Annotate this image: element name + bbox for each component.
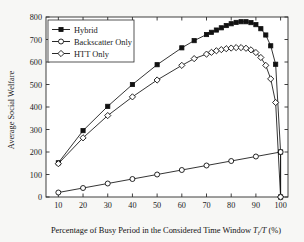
- data-point-marker: [106, 104, 110, 108]
- x-tick-label: 30: [104, 201, 112, 210]
- y-tick-label: 0: [38, 193, 42, 202]
- data-point-marker: [254, 23, 258, 27]
- data-point-marker: [204, 163, 209, 168]
- data-point-marker: [179, 168, 184, 173]
- line-chart: 0100200300400500600700800 10203040506070…: [0, 0, 304, 242]
- x-tick-label: 40: [128, 201, 136, 210]
- y-tick-label: 500: [30, 81, 42, 90]
- data-point-marker: [259, 27, 263, 31]
- data-point-marker: [264, 33, 268, 37]
- chart-figure: 0100200300400500600700800 10203040506070…: [0, 0, 304, 242]
- x-tick-label: 100: [274, 201, 286, 210]
- data-point-marker: [105, 181, 110, 186]
- x-tick-label: 70: [202, 201, 210, 210]
- data-point-marker: [155, 63, 159, 67]
- data-point-marker: [229, 159, 234, 164]
- x-axis-title: Percentage of Busy Period in the Conside…: [51, 226, 281, 236]
- data-point-marker: [278, 150, 283, 155]
- x-tick-label: 80: [227, 201, 235, 210]
- data-point-marker: [59, 27, 63, 31]
- x-tick-label: 50: [153, 201, 161, 210]
- data-point-marker: [269, 44, 273, 48]
- data-point-marker: [229, 22, 233, 26]
- data-point-marker: [239, 20, 243, 24]
- data-point-marker: [81, 129, 85, 133]
- x-tick-label: 10: [54, 201, 62, 210]
- data-point-marker: [224, 23, 228, 27]
- x-tick-label: 20: [79, 201, 87, 210]
- data-point-marker: [155, 172, 160, 177]
- data-point-marker: [214, 28, 218, 32]
- y-tick-label: 400: [30, 103, 42, 112]
- legend-label: Backscatter Only: [74, 38, 133, 47]
- y-tick-label: 100: [30, 171, 42, 180]
- data-point-marker: [274, 62, 278, 66]
- data-point-marker: [59, 39, 64, 44]
- data-point-marker: [56, 190, 61, 195]
- data-point-marker: [219, 26, 223, 30]
- data-point-marker: [209, 30, 213, 34]
- data-point-marker: [130, 177, 135, 182]
- x-tick-label: 60: [178, 201, 186, 210]
- y-axis-title: Average Social Welfare: [7, 71, 16, 150]
- legend-label: Hybrid: [74, 26, 99, 35]
- y-tick-label: 800: [30, 13, 42, 22]
- data-point-marker: [249, 21, 253, 25]
- y-tick-label: 700: [30, 36, 42, 45]
- data-point-marker: [234, 20, 238, 24]
- data-point-marker: [81, 186, 86, 191]
- legend-label: HTT Only: [74, 50, 110, 59]
- y-tick-label: 600: [30, 58, 42, 67]
- data-point-marker: [244, 20, 248, 24]
- data-point-marker: [253, 154, 258, 159]
- data-point-marker: [130, 82, 134, 86]
- chart-legend: HybridBackscatter OnlyHTT Only: [48, 20, 134, 62]
- y-tick-label: 200: [30, 148, 42, 157]
- x-tick-label: 90: [252, 201, 260, 210]
- data-point-marker: [192, 39, 196, 43]
- data-point-marker: [204, 32, 208, 36]
- y-tick-label: 300: [30, 126, 42, 135]
- data-point-marker: [180, 46, 184, 50]
